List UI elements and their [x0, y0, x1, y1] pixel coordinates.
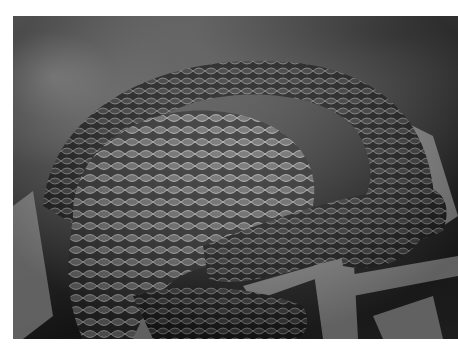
snake-illustration: [13, 16, 458, 339]
snake-photo: [13, 16, 458, 339]
